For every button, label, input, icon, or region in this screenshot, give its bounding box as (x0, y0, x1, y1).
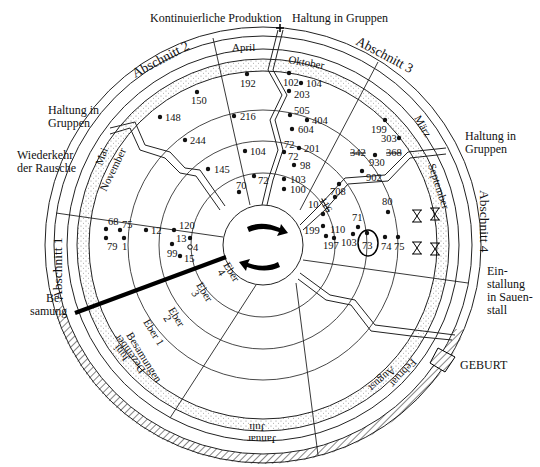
label-haltung-right-1: Haltung in (465, 129, 516, 143)
svg-text:102: 102 (283, 77, 299, 88)
label-haltung-left-1: Haltung in (48, 103, 99, 117)
svg-text:15: 15 (184, 253, 195, 264)
sow-planner-wheel: Kontinuierliche Produktion Haltung in Gr… (0, 0, 540, 467)
svg-text:100: 100 (290, 184, 306, 195)
svg-text:203: 203 (294, 89, 310, 100)
svg-text:216: 216 (240, 111, 256, 122)
label-einstallung-1: Ein- (487, 264, 508, 278)
svg-text:4: 4 (193, 242, 199, 253)
abschnitt-4-label: Abschnitt 4 (477, 190, 492, 253)
svg-text:71: 71 (352, 212, 363, 223)
svg-text:74: 74 (381, 241, 392, 252)
label-eber-4b: 4 (215, 267, 228, 278)
svg-text:110: 110 (330, 224, 345, 235)
svg-text:199: 199 (304, 225, 320, 236)
svg-text:342: 342 (350, 147, 366, 158)
svg-text:103: 103 (341, 237, 357, 248)
label-eber-2b: 2 (161, 313, 174, 324)
label-haltung-top: Haltung in Gruppen (292, 11, 388, 25)
svg-text:404: 404 (312, 115, 329, 126)
svg-text:68: 68 (108, 216, 119, 227)
label-wiederkehr-2: der Rausche (17, 161, 76, 175)
sow-markers-abschnitt-1: 68 75 79 1 12 120 13 4 99 15 (104, 216, 199, 264)
svg-text:145: 145 (214, 164, 230, 175)
month-januar: Januar (247, 434, 276, 446)
svg-text:192: 192 (240, 78, 256, 89)
label-einstallung-2: stallung (487, 277, 525, 291)
label-geburt: GEBURT (460, 358, 508, 372)
label-eber-3b: 3 (189, 288, 202, 299)
label-einstallung-4: stall (487, 303, 508, 317)
svg-text:505: 505 (294, 105, 310, 116)
svg-text:75: 75 (394, 241, 405, 252)
svg-text:368: 368 (386, 147, 402, 158)
svg-text:604: 604 (298, 124, 315, 135)
svg-text:197: 197 (323, 240, 339, 251)
svg-text:244: 244 (190, 135, 207, 146)
svg-text:10: 10 (308, 199, 319, 210)
svg-text:104: 104 (306, 78, 323, 89)
svg-text:201: 201 (304, 143, 320, 154)
svg-text:12: 12 (151, 225, 162, 236)
abschnitt-3-label: Abschnitt 3 (354, 33, 417, 76)
svg-text:70: 70 (236, 180, 247, 191)
label-einstallung-3: in Sauen- (487, 290, 533, 304)
month-maerz: März (412, 113, 434, 139)
label-besamung-1: Be- (46, 291, 63, 305)
label-haltung-right-2: Gruppen (465, 142, 507, 156)
label-haltung-left-2: Gruppen (48, 116, 90, 130)
svg-text:148: 148 (165, 112, 181, 123)
label-kontinuierliche-produktion: Kontinuierliche Produktion (150, 11, 282, 25)
svg-text:303: 303 (381, 133, 397, 144)
svg-text:73: 73 (362, 240, 373, 251)
svg-text:80: 80 (382, 196, 393, 207)
month-juli: Juli (249, 422, 265, 434)
svg-text:902: 902 (366, 172, 382, 183)
label-wiederkehr-1: Wiederkehr (17, 148, 73, 162)
svg-text:75: 75 (122, 219, 133, 230)
rotation-arrows-icon (239, 224, 288, 271)
abschnitt-2-label: Abschnitt 2 (129, 38, 191, 81)
svg-text:72: 72 (258, 175, 269, 186)
month-april: April (232, 41, 255, 53)
svg-text:79: 79 (107, 241, 118, 252)
label-besamung-2: samung (30, 304, 67, 318)
svg-text:120: 120 (179, 220, 195, 231)
svg-text:116: 116 (317, 196, 334, 215)
svg-text:1: 1 (122, 241, 127, 252)
sow-markers-abschnitt-3: 102 104 203 505 404 604 72 72 201 98 103… (282, 71, 402, 216)
svg-text:72: 72 (284, 139, 295, 150)
svg-text:98: 98 (300, 160, 311, 171)
radial-dividers (56, 38, 468, 455)
svg-text:708: 708 (330, 186, 346, 197)
svg-text:150: 150 (191, 95, 207, 106)
svg-text:930: 930 (369, 157, 385, 168)
crossed-out-marks (412, 208, 440, 255)
svg-text:13: 13 (176, 233, 187, 244)
svg-text:104: 104 (250, 146, 267, 157)
svg-text:99: 99 (167, 248, 178, 259)
svg-text:72: 72 (288, 151, 299, 162)
